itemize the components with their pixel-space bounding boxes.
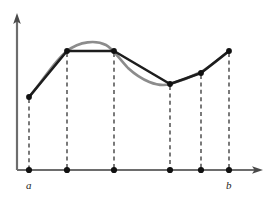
baseline-point-2 [111,167,117,173]
x-axis-label-b: b [226,179,232,191]
curve-point-0 [26,94,32,100]
baseline-point-4 [198,167,204,173]
baseline-point-5 [226,167,232,173]
curve-point-1 [64,48,70,54]
figure-container: a b [0,0,277,197]
baseline-point-3 [167,167,173,173]
x-axis-label-a: a [26,179,32,191]
curve-approximation-diagram: a b [0,0,277,197]
curve-point-3 [167,81,173,87]
smooth-curve-path [29,42,229,97]
y-axis [13,13,21,170]
curve-point-4 [198,70,204,76]
curve-point-2 [111,48,117,54]
baseline-point-1 [64,167,70,173]
baseline-point-0 [26,167,32,173]
curve-point-5 [226,48,232,54]
